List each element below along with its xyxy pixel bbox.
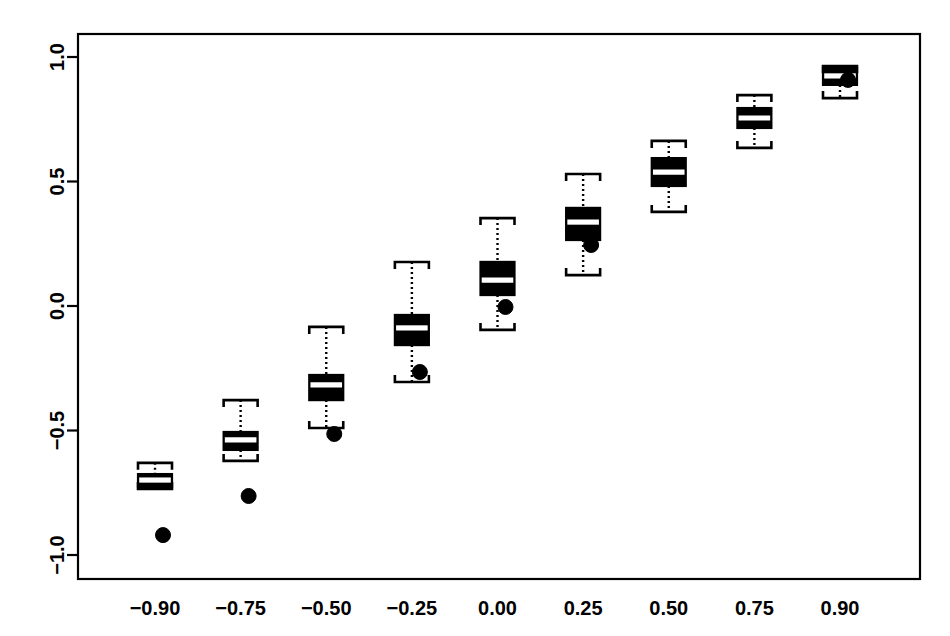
outlier-point: [841, 72, 856, 87]
y-tick-label: −0.5: [46, 411, 68, 450]
x-tick-label: 0.90: [821, 597, 860, 619]
outlier-point: [327, 426, 342, 441]
y-tick-label: −1.0: [46, 535, 68, 574]
outlier-point: [412, 364, 427, 379]
outlier-point: [498, 299, 513, 314]
x-tick-label: 0.00: [478, 597, 517, 619]
x-tick-label: −0.90: [130, 597, 181, 619]
outlier-point: [584, 237, 599, 252]
x-tick-label: −0.25: [387, 597, 438, 619]
outlier-point: [156, 528, 171, 543]
x-tick-label: 0.75: [735, 597, 774, 619]
plot-background: [0, 0, 950, 636]
x-tick-label: −0.50: [301, 597, 352, 619]
y-tick-label: 0.0: [46, 292, 68, 320]
x-tick-label: 0.25: [564, 597, 603, 619]
x-axis: −0.90−0.75−0.50−0.250.000.250.500.750.90: [130, 597, 860, 619]
box-body: [309, 375, 343, 400]
boxplot-canvas: 1.00.50.0−0.5−1.0 −0.90−0.75−0.50−0.250.…: [0, 0, 950, 636]
x-tick-label: −0.75: [215, 597, 266, 619]
outlier-point: [241, 488, 256, 503]
y-tick-label: 1.0: [46, 43, 68, 71]
boxplot-figure: 1.00.50.0−0.5−1.0 −0.90−0.75−0.50−0.250.…: [0, 0, 950, 636]
x-tick-label: 0.50: [649, 597, 688, 619]
y-tick-label: 0.5: [46, 168, 68, 196]
